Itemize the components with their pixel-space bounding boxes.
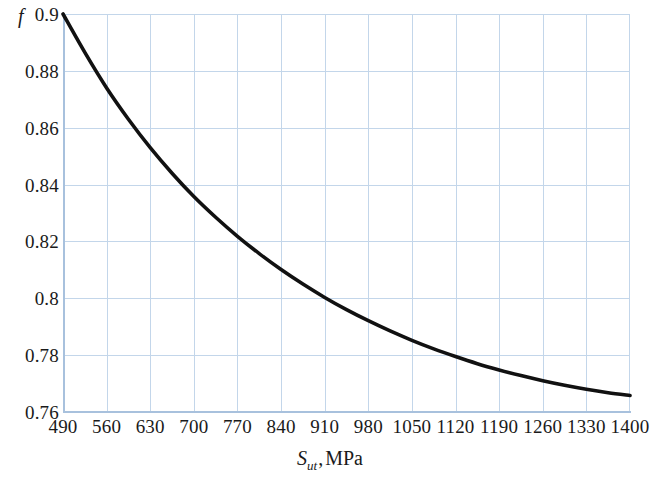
y-tick-label: 0.88: [3, 62, 59, 81]
y-tick-label: 0.9: [3, 5, 59, 24]
x-tick-labels: 4905606307007708409109801050112011901260…: [63, 417, 630, 443]
x-axis-separator: ,: [317, 447, 325, 469]
data-curve: [63, 14, 630, 412]
curve-path: [63, 14, 630, 396]
fatigue-strength-fraction-chart: 0.90.880.860.840.820.80.780.76 490560630…: [0, 0, 660, 481]
x-tick-label: 1400: [598, 417, 660, 436]
x-axis-symbol: S: [297, 447, 307, 469]
x-axis-unit: MPa: [325, 447, 363, 469]
x-axis-title: Sut,MPa: [0, 447, 660, 477]
y-tick-label: 0.82: [3, 232, 59, 251]
y-tick-label: 0.86: [3, 119, 59, 138]
y-tick-label: 0.78: [3, 346, 59, 365]
x-axis-subscript: ut: [307, 458, 317, 473]
y-tick-label: 0.84: [3, 176, 59, 195]
y-tick-label: 0.8: [3, 289, 59, 308]
y-axis-title: f: [18, 6, 24, 26]
y-tick-labels: 0.90.880.860.840.820.80.780.76: [0, 0, 59, 481]
